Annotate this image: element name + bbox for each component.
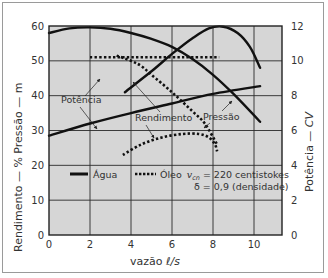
x-tick-label: 8 [210, 239, 216, 250]
legend-density: δ = 0,9 (densidade) [194, 181, 289, 192]
pump-performance-chart: 02468100102030405060024681012 Rendimento… [0, 0, 328, 278]
x-tick-label: 2 [87, 239, 93, 250]
y-tick-label-left: 20 [31, 160, 44, 171]
annotation-rendimento: Rendimento [135, 112, 193, 123]
y-axis-label-left: Rendimento — % Pressão — m [12, 83, 25, 253]
y-tick-label-left: 50 [31, 55, 44, 66]
y-tick-label-right: 4 [291, 160, 297, 171]
annotation-pressao: Pressão [203, 111, 240, 122]
x-axis-label: vazão ℓ/s [130, 255, 180, 268]
y-tick-label-right: 12 [291, 21, 304, 32]
x-tick-label: 0 [46, 239, 52, 250]
y-tick-label-right: 8 [291, 90, 297, 101]
x-tick-label: 4 [128, 239, 134, 250]
y-tick-label-right: 0 [291, 230, 297, 241]
y-tick-label-right: 10 [291, 55, 304, 66]
y-tick-label-left: 10 [31, 195, 44, 206]
annotation-potencia: Potência [61, 94, 101, 105]
x-tick-label: 10 [248, 239, 261, 250]
y-tick-label-left: 60 [31, 21, 44, 32]
x-tick-label: 6 [169, 239, 175, 250]
y-tick-label-left: 40 [31, 90, 44, 101]
y-axis-label-right: Potência — CV [303, 110, 316, 192]
y-tick-label-right: 2 [291, 195, 297, 206]
y-tick-label-right: 6 [291, 125, 297, 136]
legend-label-agua: Água [93, 169, 117, 180]
y-tick-label-left: 30 [31, 125, 44, 136]
y-tick-label-left: 0 [38, 230, 44, 241]
